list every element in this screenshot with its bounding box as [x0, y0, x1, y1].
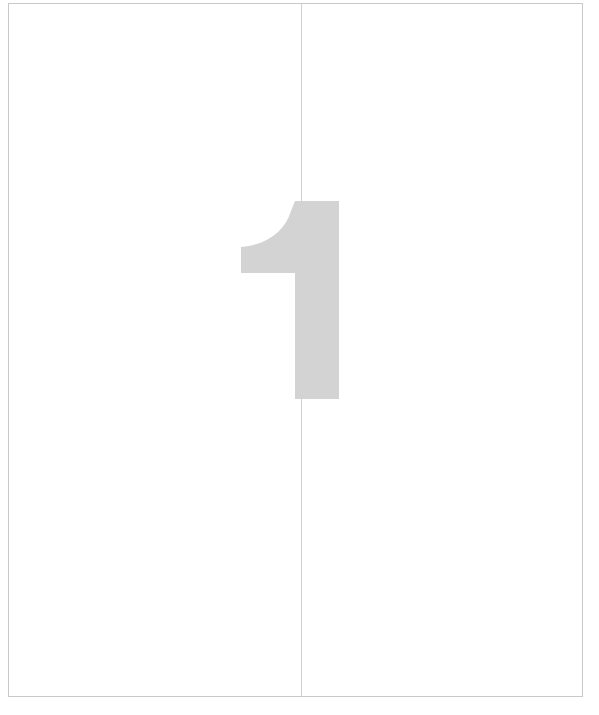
digit-one-icon — [241, 201, 339, 399]
document-page: 1 — [8, 3, 583, 697]
document-body-text — [8, 3, 9, 4]
page-number-glyph: 1 — [241, 201, 339, 399]
